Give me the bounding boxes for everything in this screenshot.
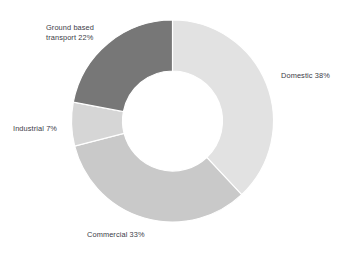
slice-label-domestic: Domestic 38% [281, 71, 351, 81]
donut-slices-group [72, 20, 274, 222]
donut-chart: Ground based transport 22% Domestic 38% … [0, 0, 351, 258]
slice-label-ground-based-transport: Ground based transport 22% [46, 23, 126, 42]
slice-label-commercial: Commercial 33% [87, 230, 177, 240]
slice-label-industrial: Industrial 7% [13, 124, 79, 134]
